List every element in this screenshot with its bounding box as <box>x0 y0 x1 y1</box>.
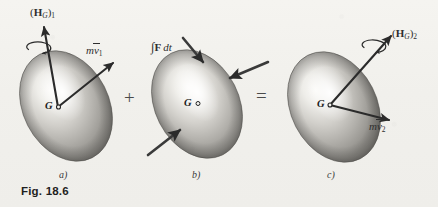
panel-a-body <box>1 35 130 177</box>
panel-c-center-marker <box>328 103 332 107</box>
label-angular-momentum-initial: (HG)1 <box>30 7 55 20</box>
panel-letter-c: c) <box>327 170 335 180</box>
equals-operator: = <box>256 86 267 105</box>
panel-letter-b: b) <box>192 170 200 180</box>
panel-a-center-marker <box>57 105 61 109</box>
panel-c-center-label: G <box>317 99 325 110</box>
plus-operator: + <box>124 88 135 107</box>
label-linear-momentum-initial: mv1 <box>86 45 103 58</box>
panel-b-center-label: G <box>184 98 192 109</box>
figure-18-6: (HG)1 mv1 G ∫Fdt G (HG)2 mv2 G + = a) b)… <box>0 0 438 207</box>
panel-b-center-marker <box>196 102 200 106</box>
label-linear-impulse: ∫Fdt <box>151 41 172 54</box>
label-linear-momentum-final: mv2 <box>369 121 386 134</box>
panel-a-center-label: G <box>45 101 53 112</box>
label-angular-momentum-final: (HG)2 <box>392 28 417 41</box>
figure-caption: Fig. 18.6 <box>21 186 69 198</box>
panel-letter-a: a) <box>59 170 67 180</box>
